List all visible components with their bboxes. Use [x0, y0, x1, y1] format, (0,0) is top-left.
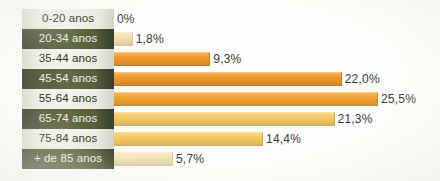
chart-row: 55-64 anos25,5% [0, 89, 440, 109]
chart-row: 0-20 anos0% [0, 9, 440, 29]
category-label-text: + de 85 anos [34, 153, 102, 165]
data-bar [114, 92, 378, 106]
bar-track [114, 52, 440, 66]
chart-row: 35-44 anos9,3% [0, 49, 440, 69]
data-bar [114, 112, 335, 126]
data-bar [114, 132, 263, 146]
chart-row: 65-74 anos21,3% [0, 109, 440, 129]
chart-rows: 0-20 anos0%20-34 anos1,8%35-44 anos9,3%4… [0, 9, 440, 169]
value-label: 0% [117, 10, 135, 28]
data-bar [114, 152, 173, 166]
category-label-cell: 0-20 anos [22, 9, 114, 29]
category-label-cell: 65-74 anos [22, 109, 114, 129]
category-label-text: 0-20 anos [42, 13, 94, 25]
data-bar [114, 32, 133, 46]
age-distribution-bar-chart: 0-20 anos0%20-34 anos1,8%35-44 anos9,3%4… [0, 0, 440, 181]
value-label: 9,3% [213, 50, 241, 68]
category-label-cell: 35-44 anos [22, 49, 114, 69]
bar-track [114, 152, 440, 166]
category-label-text: 45-54 anos [39, 73, 98, 85]
data-bar [114, 52, 210, 66]
data-bar [114, 72, 342, 86]
category-label-text: 75-84 anos [39, 133, 98, 145]
category-label-text: 55-64 anos [39, 93, 98, 105]
category-label-text: 65-74 anos [39, 113, 98, 125]
chart-row: 75-84 anos14,4% [0, 129, 440, 149]
category-label-cell: 20-34 anos [22, 29, 114, 49]
chart-row: + de 85 anos5,7% [0, 149, 440, 169]
bar-track [114, 72, 440, 86]
value-label: 1,8% [136, 30, 164, 48]
category-label-text: 35-44 anos [39, 53, 98, 65]
category-label-cell: + de 85 anos [22, 149, 114, 169]
category-label-text: 20-34 anos [39, 33, 98, 45]
chart-row: 20-34 anos1,8% [0, 29, 440, 49]
category-label-cell: 75-84 anos [22, 129, 114, 149]
value-label: 25,5% [381, 90, 416, 108]
value-label: 21,3% [338, 110, 373, 128]
value-label: 22,0% [345, 70, 380, 88]
category-label-cell: 55-64 anos [22, 89, 114, 109]
value-label: 5,7% [176, 150, 204, 168]
bar-track [114, 12, 440, 26]
chart-row: 45-54 anos22,0% [0, 69, 440, 89]
bar-track [114, 112, 440, 126]
value-label: 14,4% [266, 130, 301, 148]
category-label-cell: 45-54 anos [22, 69, 114, 89]
